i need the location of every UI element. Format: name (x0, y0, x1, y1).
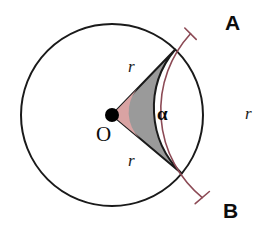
label-radius-upper: r (128, 58, 135, 75)
diagram-canvas (0, 0, 271, 231)
label-point-a: A (225, 12, 240, 33)
label-angle-alpha: α (157, 104, 168, 123)
label-point-b: B (223, 200, 238, 221)
label-radius-lower: r (128, 152, 135, 169)
center-point-dot (105, 108, 119, 122)
radian-circle-diagram: A B O α r r r (0, 0, 271, 231)
label-radius-arc: r (245, 105, 252, 122)
label-origin-o: O (96, 124, 111, 145)
